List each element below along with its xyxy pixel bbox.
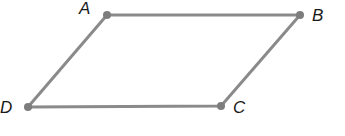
vertex-label-c: C bbox=[233, 98, 246, 117]
vertex-label-b: B bbox=[312, 6, 323, 25]
vertex-point-b bbox=[296, 11, 304, 19]
vertex-label-a: A bbox=[78, 0, 90, 18]
vertex-point-c bbox=[217, 102, 225, 110]
parallelogram-diagram: A B C D bbox=[0, 0, 345, 136]
vertex-label-d: D bbox=[0, 98, 12, 117]
parallelogram-shape bbox=[28, 15, 300, 107]
vertex-point-a bbox=[103, 11, 111, 19]
vertex-point-d bbox=[24, 103, 32, 111]
